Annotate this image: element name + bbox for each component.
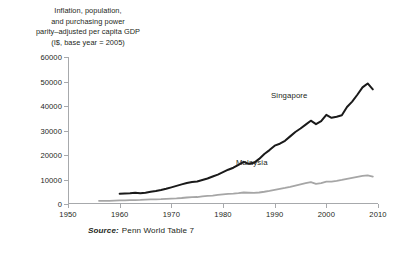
- title-line-1: Inflation, population,: [0, 6, 176, 17]
- line-singapore: [120, 83, 373, 193]
- series-label-singapore: Singapore: [271, 91, 307, 100]
- y-tick-label-20000: 20000: [40, 151, 62, 160]
- x-tick-2000: [326, 204, 327, 208]
- x-tick-label-2000: 2000: [318, 210, 335, 219]
- series-lines: [68, 57, 378, 204]
- line-malaysia: [99, 175, 373, 200]
- source-note: Source:Penn World Table 7: [88, 226, 194, 235]
- chart-title: Inflation, population, and purchasing po…: [0, 6, 176, 48]
- y-tick-label-50000: 50000: [40, 77, 62, 86]
- y-tick-label-60000: 60000: [40, 53, 62, 62]
- chart-figure: Inflation, population, and purchasing po…: [0, 0, 394, 253]
- source-label: Source:: [88, 226, 119, 235]
- plot-area: 0100002000030000400005000060000 19501960…: [68, 57, 378, 204]
- y-tick-label-30000: 30000: [40, 126, 62, 135]
- title-line-3: parity–adjusted per capita GDP: [0, 27, 176, 38]
- x-tick-1980: [223, 204, 224, 208]
- y-tick-label-10000: 10000: [40, 175, 62, 184]
- y-tick-label-0: 0: [58, 200, 62, 209]
- x-tick-1950: [68, 204, 69, 208]
- y-tick-label-40000: 40000: [40, 102, 62, 111]
- x-tick-1990: [275, 204, 276, 208]
- x-tick-label-1950: 1950: [59, 210, 76, 219]
- x-tick-2010: [378, 204, 379, 208]
- series-label-malaysia: Malaysia: [236, 158, 268, 167]
- source-text: Penn World Table 7: [122, 226, 194, 235]
- x-tick-label-1960: 1960: [111, 210, 128, 219]
- x-tick-label-1980: 1980: [214, 210, 231, 219]
- x-tick-1970: [171, 204, 172, 208]
- x-tick-label-2010: 2010: [369, 210, 386, 219]
- x-tick-label-1990: 1990: [266, 210, 283, 219]
- x-tick-1960: [120, 204, 121, 208]
- title-line-2: and purchasing power: [0, 17, 176, 28]
- x-tick-label-1970: 1970: [163, 210, 180, 219]
- title-line-4: (I$, base year = 2005): [0, 38, 176, 49]
